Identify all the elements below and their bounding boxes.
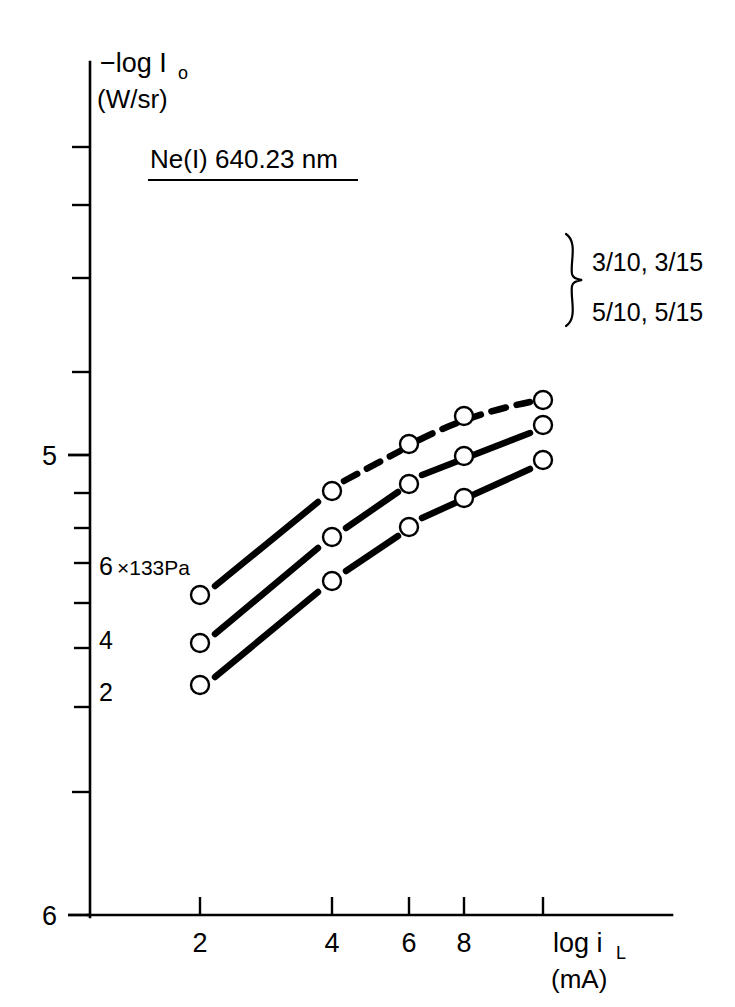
y-axis-title: −log I bbox=[100, 48, 167, 78]
figure-container: 5 6 −log I o (W/sr) 2 4 6 8 log i L (mA)… bbox=[0, 0, 735, 1007]
x-axis-ticks bbox=[200, 897, 543, 915]
series-line-2x133pa bbox=[215, 469, 530, 677]
series-label-3: 3/10, 3/15 bbox=[592, 248, 703, 276]
y-axis-title-subscript: o bbox=[178, 63, 188, 83]
x-axis-unit: (mA) bbox=[551, 964, 607, 994]
chart-svg: 5 6 −log I o (W/sr) 2 4 6 8 log i L (mA)… bbox=[0, 0, 735, 1007]
x-tick-label-8: 8 bbox=[456, 928, 471, 958]
x-tick-label-6: 6 bbox=[401, 928, 416, 958]
x-tick-label-4: 4 bbox=[324, 928, 339, 958]
y-axis-ticks bbox=[68, 147, 90, 915]
pressure-label-6-unit: ×133Pa bbox=[117, 556, 190, 579]
pressure-label-2: 2 bbox=[99, 678, 113, 706]
y-axis-unit: (W/sr) bbox=[97, 84, 168, 114]
y-tick-label-6: 6 bbox=[42, 901, 57, 931]
series-markers-6x133pa bbox=[191, 391, 552, 604]
series-markers-2x133pa bbox=[191, 451, 552, 694]
pressure-label-4: 4 bbox=[99, 626, 113, 654]
pressure-label-6: 6 bbox=[99, 552, 113, 580]
x-tick-label-2: 2 bbox=[192, 928, 207, 958]
plot-title: Ne(I) 640.23 nm bbox=[150, 144, 338, 174]
y-tick-label-5: 5 bbox=[42, 441, 57, 471]
series-label-5: 5/10, 5/15 bbox=[592, 298, 703, 326]
series-brace bbox=[566, 234, 582, 326]
x-axis-title: log i bbox=[553, 928, 603, 958]
x-axis-title-subscript: L bbox=[616, 943, 626, 963]
series-markers-4x133pa bbox=[191, 416, 552, 652]
